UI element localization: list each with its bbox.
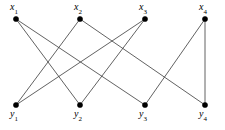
- vertex-label-y3: y3: [139, 109, 147, 122]
- graph-vertex-y1: [13, 102, 18, 107]
- vertex-label-y1: y1: [10, 109, 18, 122]
- graph-vertex-y4: [202, 102, 207, 107]
- vertex-label-subscript: 3: [143, 8, 147, 16]
- graph-vertex-x4: [202, 16, 207, 21]
- vertex-label-x4: x4: [199, 2, 207, 15]
- vertex-label-y4: y4: [199, 109, 207, 122]
- vertex-label-y2: y2: [74, 109, 82, 122]
- vertex-label-subscript: 2: [78, 115, 82, 123]
- graph-canvas: [0, 0, 225, 130]
- vertex-label-x1: x1: [10, 2, 18, 15]
- vertex-layer: [13, 16, 207, 107]
- graph-vertex-x1: [13, 16, 18, 21]
- graph-vertex-x2: [77, 16, 82, 21]
- graph-vertex-y2: [77, 102, 82, 107]
- edge-layer: [16, 19, 205, 105]
- vertex-label-subscript: 4: [203, 8, 207, 16]
- vertex-label-x2: x2: [74, 2, 82, 15]
- graph-vertex-x3: [142, 16, 147, 21]
- graph-edge: [80, 19, 145, 105]
- graph-vertex-y3: [142, 102, 147, 107]
- vertex-label-subscript: 4: [203, 115, 207, 123]
- vertex-label-subscript: 1: [14, 115, 18, 123]
- vertex-label-subscript: 1: [14, 8, 18, 16]
- vertex-label-subscript: 2: [78, 8, 82, 16]
- bipartite-graph-figure: x1x2x3x4y1y2y3y4: [0, 0, 225, 130]
- vertex-label-subscript: 3: [143, 115, 147, 123]
- graph-edge: [145, 19, 205, 105]
- vertex-label-x3: x3: [139, 2, 147, 15]
- graph-edge: [80, 19, 205, 105]
